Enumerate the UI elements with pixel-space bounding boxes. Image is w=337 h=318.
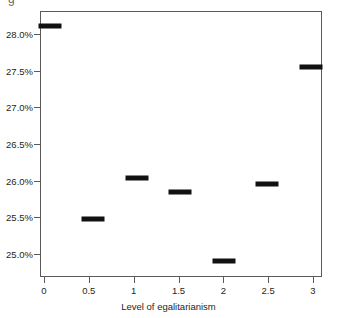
data-point-marker	[82, 217, 105, 222]
x-axis-tick	[89, 277, 90, 283]
y-axis-label: 27.5%	[0, 65, 33, 76]
x-axis-label: 0.5	[82, 285, 95, 296]
y-axis-label: 25.0%	[0, 249, 33, 260]
x-axis-label: 2.5	[262, 285, 275, 296]
data-point-marker	[169, 190, 192, 195]
y-axis-label: 26.5%	[0, 139, 33, 150]
x-axis-tick	[44, 277, 45, 283]
x-axis-label: 3	[310, 285, 315, 296]
y-axis-label: 27.0%	[0, 102, 33, 113]
x-axis-label: 1.5	[172, 285, 185, 296]
x-axis-tick	[223, 277, 224, 283]
x-axis-label: 0	[41, 285, 46, 296]
x-axis-tick	[179, 277, 180, 283]
plot-area	[40, 11, 322, 277]
data-markers-layer	[41, 12, 321, 276]
x-axis-title: Level of egalitarianism	[0, 301, 337, 312]
y-axis-label: 26.0%	[0, 175, 33, 186]
data-point-marker	[125, 175, 148, 180]
chart-screenshot: g 28.0% 27.5% 27.0% 26.5% 26.0% 25.5% 25…	[0, 0, 337, 318]
x-axis-tick	[268, 277, 269, 283]
y-axis-label: 25.5%	[0, 212, 33, 223]
x-axis-label: 1	[131, 285, 136, 296]
data-point-marker	[256, 182, 279, 187]
data-point-marker	[299, 64, 322, 69]
data-point-marker	[38, 23, 61, 28]
x-axis-tick	[313, 277, 314, 283]
x-axis-tick	[134, 277, 135, 283]
y-axis-labels: 28.0% 27.5% 27.0% 26.5% 26.0% 25.5% 25.0…	[0, 0, 33, 318]
y-axis-label: 28.0%	[0, 29, 33, 40]
data-point-marker	[212, 258, 235, 263]
x-axis-label: 2	[221, 285, 226, 296]
